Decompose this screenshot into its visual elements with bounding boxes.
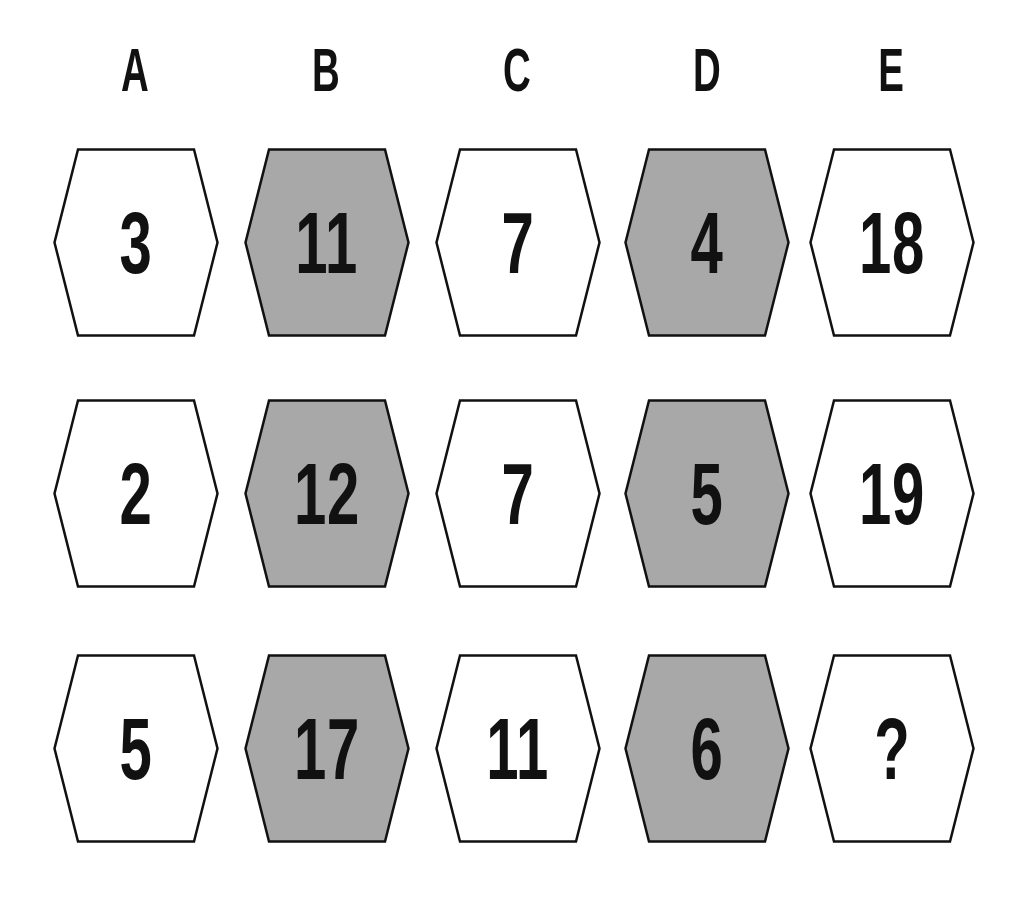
- cell-value: 12: [294, 450, 360, 538]
- cell-value: 4: [691, 199, 724, 287]
- column-header-a: A: [104, 40, 166, 100]
- cell-value: 18: [859, 199, 925, 287]
- cell-value: 5: [120, 705, 153, 793]
- hex-cell-c2: 7: [435, 399, 601, 588]
- cell-value: 5: [691, 450, 724, 538]
- column-header-b: B: [295, 40, 357, 100]
- hex-cell-b1: 11: [244, 148, 410, 337]
- cell-value: 11: [487, 705, 550, 793]
- hex-cell-d2: 5: [624, 399, 790, 588]
- column-header-e: E: [860, 40, 922, 100]
- hex-cell-b2: 12: [244, 399, 410, 588]
- column-header-d: D: [676, 40, 738, 100]
- hex-cell-c1: 7: [435, 148, 601, 337]
- hex-cell-d1: 4: [624, 148, 790, 337]
- hex-cell-e2: 19: [809, 399, 975, 588]
- cell-value: 17: [294, 705, 360, 793]
- cell-value: 7: [502, 450, 535, 538]
- cell-value: 7: [502, 199, 535, 287]
- hex-cell-e3-unknown: ?: [809, 654, 975, 843]
- question-mark: ?: [874, 705, 910, 793]
- cell-value: 11: [296, 199, 359, 287]
- cell-value: 3: [120, 199, 153, 287]
- hex-cell-b3: 17: [244, 654, 410, 843]
- hex-cell-a3: 5: [53, 654, 219, 843]
- hex-cell-c3: 11: [435, 654, 601, 843]
- cell-value: 6: [691, 705, 724, 793]
- cell-value: 19: [859, 450, 925, 538]
- hex-cell-a1: 3: [53, 148, 219, 337]
- cell-value: 2: [120, 450, 153, 538]
- hex-cell-d3: 6: [624, 654, 790, 843]
- hex-cell-e1: 18: [809, 148, 975, 337]
- column-header-c: C: [486, 40, 548, 100]
- hex-cell-a2: 2: [53, 399, 219, 588]
